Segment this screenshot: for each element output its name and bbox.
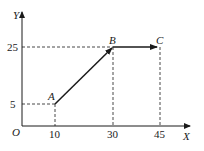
y-tick-25: 25 xyxy=(7,41,19,53)
segment-ab xyxy=(55,48,112,104)
guide-lines xyxy=(22,47,160,126)
x-axis-label: X xyxy=(182,130,191,142)
diagram-canvas: Y X O 25 5 10 30 45 A B C xyxy=(0,0,204,151)
x-tick-30: 30 xyxy=(107,128,119,140)
y-tick-5: 5 xyxy=(10,98,16,110)
point-c-label: C xyxy=(156,34,164,46)
x-tick-10: 10 xyxy=(49,128,61,140)
y-axis-label: Y xyxy=(13,9,21,21)
point-b-label: B xyxy=(109,34,116,46)
origin-label: O xyxy=(12,126,20,138)
point-a-label: A xyxy=(47,90,55,102)
x-tick-45: 45 xyxy=(154,128,166,140)
